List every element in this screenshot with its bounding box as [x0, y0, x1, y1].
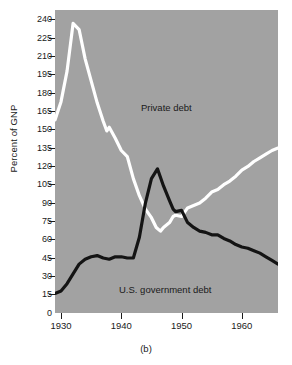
y-tick-mark: [49, 239, 55, 240]
figure-caption: (b): [0, 343, 292, 354]
y-tick-label: 30: [22, 272, 52, 281]
figure-container: Percent of GNP Private debt U.S. governm…: [0, 0, 292, 365]
x-tick-label: 1930: [41, 320, 81, 331]
x-tick-mark: [121, 313, 122, 319]
y-tick-label: 90: [22, 199, 52, 208]
y-tick-label: 15: [22, 290, 52, 299]
plot-area: Private debt U.S. government debt: [55, 10, 278, 313]
y-tick-label: 210: [22, 52, 52, 61]
x-axis: 1930194019501960: [0, 313, 292, 343]
y-tick: 165: [0, 107, 61, 116]
x-tick-mark: [242, 313, 243, 319]
y-tick-mark: [49, 19, 55, 20]
x-tick-mark: [182, 313, 183, 319]
y-tick: 75: [0, 217, 61, 226]
y-tick-mark: [49, 93, 55, 94]
series-label-private-debt: Private debt: [141, 102, 192, 113]
y-tick-label: 225: [22, 34, 52, 43]
chart-curves: [55, 10, 278, 313]
x-tick-mark: [61, 313, 62, 319]
y-tick: 15: [0, 290, 61, 299]
y-tick: 105: [0, 180, 61, 189]
y-tick-mark: [49, 38, 55, 39]
y-tick-label: 165: [22, 107, 52, 116]
y-tick: 180: [0, 89, 61, 98]
y-tick: 90: [0, 199, 61, 208]
y-tick-mark: [49, 166, 55, 167]
y-tick: 60: [0, 235, 61, 244]
y-tick-mark: [49, 129, 55, 130]
x-tick-label: 1950: [162, 320, 202, 331]
y-tick: 120: [0, 162, 61, 171]
y-tick-mark: [49, 111, 55, 112]
y-tick-label: 240: [22, 15, 52, 24]
y-tick: 45: [0, 254, 61, 263]
y-tick: 150: [0, 125, 61, 134]
y-tick-mark: [49, 276, 55, 277]
y-tick-mark: [49, 184, 55, 185]
y-tick-mark: [49, 203, 55, 204]
y-tick: 135: [0, 144, 61, 153]
y-tick-label: 75: [22, 217, 52, 226]
y-tick-label: 60: [22, 235, 52, 244]
y-tick-mark: [49, 258, 55, 259]
series-label-us-government-debt: U.S. government debt: [119, 284, 211, 295]
series-line-private-debt: [55, 23, 278, 231]
y-tick-label: 195: [22, 70, 52, 79]
y-tick-label: 135: [22, 144, 52, 153]
y-tick: 240: [0, 15, 61, 24]
x-tick-label: 1960: [222, 320, 262, 331]
x-tick-label: 1940: [101, 320, 141, 331]
series-line-us-government-debt: [55, 169, 278, 294]
y-tick-label: 150: [22, 125, 52, 134]
y-tick-label: 120: [22, 162, 52, 171]
y-tick: 210: [0, 52, 61, 61]
y-tick: 195: [0, 70, 61, 79]
y-tick-mark: [49, 294, 55, 295]
y-tick: 30: [0, 272, 61, 281]
y-tick-label: 180: [22, 89, 52, 98]
y-tick-label: 45: [22, 254, 52, 263]
y-tick-mark: [49, 221, 55, 222]
y-tick-mark: [49, 56, 55, 57]
y-tick-mark: [49, 74, 55, 75]
y-tick: 225: [0, 34, 61, 43]
y-tick-mark: [49, 148, 55, 149]
y-tick-label: 105: [22, 180, 52, 189]
